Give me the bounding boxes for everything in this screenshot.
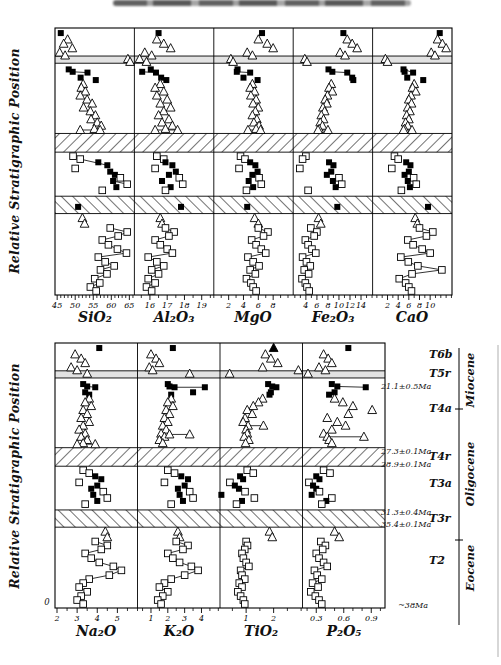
figure-1-canvas: 23451234120.30.60.9 bbox=[53, 343, 385, 623]
unit-label-t2: T2 bbox=[429, 554, 459, 567]
figure-0-canvas: 4550556065161718192468468101214246810 bbox=[51, 28, 452, 310]
y-axis-label-top: Relative Stratigraphic Position bbox=[7, 48, 22, 274]
epoch-label-miocene: Miocene bbox=[463, 353, 477, 408]
panel-TiO₂: 12 bbox=[218, 343, 302, 623]
age-label-28-9: 28.9±0.1Ma bbox=[381, 460, 428, 469]
age-label-21-1: 21.1±0.5Ma bbox=[381, 382, 428, 391]
stratigraphic-variation-plots: 4550556065161718192468468101214246810234… bbox=[0, 0, 501, 665]
band-t4r bbox=[55, 133, 452, 152]
axis-label-k2o: K₂O bbox=[164, 623, 195, 639]
tick-label: 1 bbox=[148, 614, 153, 623]
age-label-35-4: 35.4±0.1Ma bbox=[381, 520, 428, 529]
tick-label: 3 bbox=[182, 614, 187, 623]
panel-CaO: 246810 bbox=[377, 30, 452, 310]
age-label-31-3: 31.3±0.4Ma bbox=[381, 508, 428, 517]
axis-label-fe2o3: Fe₂O₃ bbox=[312, 309, 355, 325]
origin-zero-label: 0 bbox=[44, 597, 49, 607]
tick-label: 0.9 bbox=[365, 614, 378, 623]
age-label-27-3: 27.3±0.1Ma bbox=[381, 447, 428, 456]
tick-label: 0.6 bbox=[337, 614, 350, 623]
unit-label-t3a: T3a bbox=[429, 477, 459, 490]
unit-label-t6b: T6b bbox=[429, 348, 459, 361]
axis-label-tio2: TiO₂ bbox=[244, 623, 278, 639]
axis-label-sio2: SiO₂ bbox=[78, 309, 112, 325]
panel-MgO: 2468 bbox=[214, 30, 288, 310]
tick-label: 14 bbox=[356, 301, 366, 310]
unit-label-t4r: T4r bbox=[429, 450, 459, 463]
axis-label-cao: CaO bbox=[396, 309, 428, 325]
axis-label-mgo: MgO bbox=[234, 309, 271, 325]
tick-label: 2 bbox=[225, 301, 231, 310]
axis-label-al2o3: Al₂O₃ bbox=[154, 309, 195, 325]
panel-Al₂O₃: 16171819 bbox=[135, 30, 210, 310]
tick-label: 2 bbox=[270, 614, 276, 623]
tick-label: 4 bbox=[94, 614, 100, 623]
panel-Na₂O: 2345 bbox=[53, 345, 137, 623]
figure-page: 4550556065161718192468468101214246810234… bbox=[0, 0, 501, 665]
y-axis-label-bottom: Relative Stratigraphic Position bbox=[7, 363, 22, 589]
epoch-label-eocene: Eocene bbox=[463, 545, 477, 591]
epoch-label-oligocene: Oligocene bbox=[463, 442, 477, 506]
axis-label-na2o: Na₂O bbox=[76, 623, 116, 639]
tick-label: 19 bbox=[197, 301, 207, 310]
tick-label: 2 bbox=[53, 614, 59, 623]
tick-label: 4 bbox=[198, 614, 204, 623]
tick-label: 65 bbox=[124, 301, 134, 310]
tick-label: 5 bbox=[115, 614, 120, 623]
tick-label: 2 bbox=[384, 301, 390, 310]
age-label-38: ~38Ma bbox=[381, 601, 428, 610]
tick-label: 2 bbox=[164, 614, 170, 623]
unit-label-t3r: T3r bbox=[429, 512, 459, 525]
panel-K₂O: 1234 bbox=[143, 345, 219, 623]
cropped-header-artifact bbox=[113, 0, 411, 6]
tick-label: 4 bbox=[302, 301, 308, 310]
band-t3r bbox=[55, 196, 452, 213]
unit-label-t4a: T4a bbox=[429, 402, 459, 415]
tick-label: 45 bbox=[51, 301, 62, 310]
panel-Fe₂O₃: 468101214 bbox=[295, 30, 372, 310]
axis-label-p2o5: P₂O₅ bbox=[327, 623, 362, 639]
unit-label-t5r: T5r bbox=[429, 367, 459, 380]
tick-label: 1 bbox=[244, 614, 249, 623]
tick-label: 0.3 bbox=[310, 614, 323, 623]
panel-SiO₂: 4550556065 bbox=[51, 30, 134, 310]
scan-edge-artifact bbox=[497, 345, 499, 657]
tick-label: 3 bbox=[75, 614, 80, 623]
panel-P₂O₅: 0.30.60.9 bbox=[304, 345, 381, 623]
